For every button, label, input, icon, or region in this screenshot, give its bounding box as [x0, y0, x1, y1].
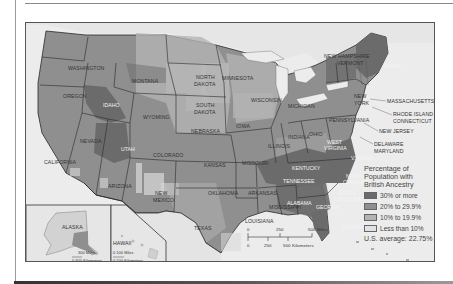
callout-label: NEW JERSEY — [379, 128, 414, 134]
state-label: WYOMING — [143, 114, 170, 120]
state-label: IDAHO — [103, 102, 119, 108]
state-label: CAROLINA — [335, 196, 362, 202]
scale-km-250: 250 — [264, 243, 272, 248]
alaska-inset: ALASKA 300 Miles 0 300 Kilometers — [26, 205, 111, 262]
callout-label: CONNECTICUT — [393, 118, 433, 124]
hawaii-label: HAWAII — [113, 240, 132, 246]
state-label: DAKOTA — [194, 109, 216, 115]
state-label: MISSOURI — [242, 160, 268, 166]
state-label: DAKOTA — [194, 81, 216, 87]
state-label: IOWA — [236, 123, 250, 129]
state-label: KENTUCKY — [292, 165, 321, 171]
state-label: NEW — [354, 93, 366, 99]
state-label: CALIFORNIA — [44, 159, 77, 165]
state-label: VIRGINIA — [351, 155, 374, 161]
state-label: TEXAS — [194, 225, 212, 231]
state-label: ILLINOIS — [268, 143, 291, 149]
legend-swatch — [364, 214, 377, 221]
us-average: U.S. average: 22.75% — [364, 235, 435, 242]
state-label: MICHIGAN — [288, 103, 315, 109]
scale-bar: 0 250 500 Miles 0 250 500 Kilometers — [247, 227, 328, 248]
hawaii-scale-miles: 0 100 Miles — [113, 251, 134, 255]
state-label: NEBRASKA — [191, 128, 220, 134]
state-label: NEVADA — [80, 138, 102, 144]
scale-km-0: 0 — [247, 243, 250, 248]
legend-title: Percentage of Population with British An… — [364, 165, 435, 189]
page-rule-left — [15, 0, 16, 284]
state-label: ALABAMA — [287, 200, 312, 206]
callout-label: RHODE ISLAND — [393, 111, 433, 117]
legend: Percentage of Population with British An… — [364, 165, 435, 242]
state-label: WISCONSIN — [251, 97, 282, 103]
scale-mile-0: 0 — [247, 227, 250, 232]
callout-label: NEW HAMPSHIRE — [324, 53, 370, 59]
state-label: MAINE — [385, 63, 402, 69]
state-label: COLORADO — [153, 152, 184, 158]
state-label: KANSAS — [204, 162, 226, 168]
callout-label: MARYLAND — [374, 148, 404, 154]
state-label: PENNSYLVANIA — [329, 117, 370, 123]
legend-swatch — [364, 192, 377, 199]
legend-swatch — [364, 225, 377, 232]
state-label: UTAH — [121, 146, 135, 152]
callout-label: DELAWARE — [374, 141, 404, 147]
state-label: OKLAHOMA — [208, 190, 239, 196]
map-frame: WASHINGTON OREGON CALIFORNIA NEVADA IDAH… — [25, 22, 435, 262]
state-label: SOUTH — [196, 102, 215, 108]
state-label: MONTANA — [132, 78, 159, 84]
state-label: TENNESSEE — [283, 178, 315, 184]
state-label: ARIZONA — [108, 183, 132, 189]
scale-mile-500: 500 Miles — [308, 227, 328, 232]
legend-item: Less than 10% — [364, 224, 435, 233]
state-label: FLORIDA — [342, 224, 365, 230]
legend-item: 30% or more — [364, 191, 435, 200]
state-label: MEXICO — [153, 197, 174, 203]
legend-item: 20% to 29.9% — [364, 202, 435, 211]
state-label: OHIO — [309, 131, 323, 137]
state-label: NORTH — [196, 74, 215, 80]
state-label: INDIANA — [288, 134, 310, 140]
legend-swatch — [364, 203, 377, 210]
scale-mile-250: 250 — [276, 227, 284, 232]
alaska-label: ALASKA — [62, 224, 83, 230]
caribbean-islands — [356, 241, 409, 261]
alaska-scale-miles: 300 Miles — [78, 251, 95, 255]
legend-item: 10% to 19.9% — [364, 213, 435, 222]
hawaii-scale-km: 0 100 Kilometers — [113, 259, 143, 262]
callout-label: VERMONT — [337, 60, 364, 66]
state-label: YORK — [354, 100, 370, 106]
state-label: OREGON — [63, 93, 87, 99]
alaska-scale-km: 0 300 Kilometers — [72, 259, 102, 262]
state-label: NEW — [155, 190, 167, 196]
state-label: WASHINGTON — [68, 65, 105, 71]
state-label: LOUISIANA — [245, 218, 274, 224]
state-label: MINNESOTA — [222, 75, 254, 81]
scale-km-500: 500 Kilometers — [283, 243, 314, 248]
state-label: VIRGINIA — [324, 145, 347, 151]
state-label: GEORGIA — [316, 204, 341, 210]
callout-label: MASSACHUSETTS — [387, 98, 435, 104]
page-rule-top — [25, 3, 453, 4]
state-label: ARKANSAS — [248, 190, 277, 196]
